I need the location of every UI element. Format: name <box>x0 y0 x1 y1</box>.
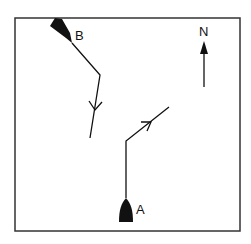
vessel-b-icon <box>50 18 72 43</box>
vessel-a-label: A <box>136 202 145 217</box>
vessel-a-icon <box>119 198 133 222</box>
vessel-b: B <box>50 18 102 138</box>
diagram-canvas: B A N <box>0 0 251 244</box>
north-indicator: N <box>199 24 208 87</box>
vessel-a-course <box>126 107 169 198</box>
vessel-a: A <box>119 107 169 222</box>
north-label: N <box>199 24 208 39</box>
north-arrow-icon <box>200 41 208 54</box>
vessel-a-arrow-icon <box>141 122 151 131</box>
vessel-b-label: B <box>75 28 84 43</box>
vessel-b-course <box>72 43 100 138</box>
